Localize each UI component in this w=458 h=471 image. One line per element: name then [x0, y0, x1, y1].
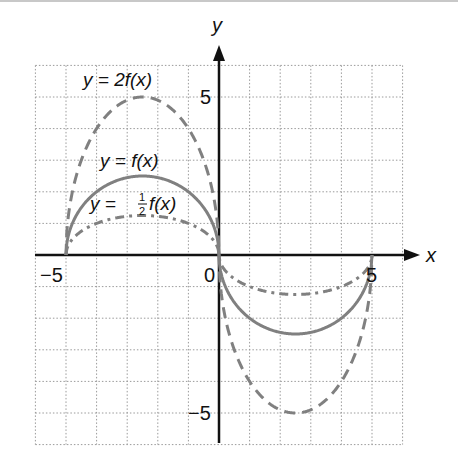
function-graph: x y −5 0 5 5 −5 y = 2f(x) y = f(x) y = 1…: [0, 0, 458, 471]
y-tick-5: 5: [200, 86, 211, 108]
x-axis-arrow-icon: [404, 249, 420, 261]
x-axis-label: x: [425, 244, 437, 266]
label-half-f: y = 1 2 f(x): [88, 191, 176, 217]
y-tick-neg5: −5: [188, 402, 211, 424]
label-half-lhs: y =: [88, 193, 121, 214]
label-half-rhs: f(x): [149, 193, 176, 214]
y-axis-label: y: [210, 14, 223, 36]
axes: [35, 45, 420, 443]
x-tick-neg5: −5: [40, 264, 63, 286]
x-tick-5: 5: [366, 264, 377, 286]
label-2f: y = 2f(x): [81, 69, 152, 90]
y-axis-arrow-icon: [213, 45, 225, 61]
label-half-den: 2: [139, 205, 145, 217]
label-f: y = f(x): [98, 150, 159, 171]
origin-tick: 0: [204, 264, 215, 286]
label-half-num: 1: [139, 191, 145, 203]
